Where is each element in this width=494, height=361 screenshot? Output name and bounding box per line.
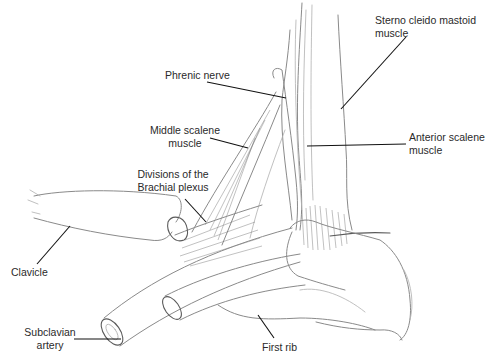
brachial-plexus-drawing [175,205,262,266]
label-clavicle: Clavicle [11,266,48,279]
leader-lines [37,37,406,339]
leader-phrenic [207,82,286,98]
vertebra-drawing [287,220,412,340]
label-line: First rib [262,341,297,354]
label-line: Sterno cleido mastoid [375,14,476,27]
label-line: Clavicle [11,266,48,279]
label-line: Brachial plexus [128,181,218,194]
anatomy-diagram: Sterno cleido mastoid muscle Phrenic ner… [0,0,494,361]
leader-sterno [341,37,406,109]
clavicle-drawing [28,190,187,241]
leader-clavicle [37,226,70,264]
leader-anterior-scalene [307,144,406,146]
label-line: Subclavian [20,326,80,339]
anatomy-sketch [0,0,494,361]
label-line: artery [20,339,80,352]
label-line: muscle [375,27,476,40]
label-line: Phrenic nerve [165,69,230,82]
first-rib-drawing [218,289,375,330]
label-anterior-scalene: Anterior scalene muscle [409,131,485,156]
label-brachial-plexus: Divisions of the Brachial plexus [128,168,218,193]
leader-brachial [185,199,206,222]
label-line: muscle [409,144,485,157]
label-subclavian-artery: Subclavian artery [20,326,80,351]
label-line: Middle scalene [145,124,225,137]
label-middle-scalene: Middle scalene muscle [145,124,225,149]
label-line: Anterior scalene [409,131,485,144]
label-sternocleidomastoid: Sterno cleido mastoid muscle [375,14,476,39]
label-phrenic-nerve: Phrenic nerve [165,69,230,82]
label-line: muscle [145,137,225,150]
label-line: Divisions of the [128,168,218,181]
label-first-rib: First rib [262,341,297,354]
sternocleidomastoid-drawing [297,3,390,250]
